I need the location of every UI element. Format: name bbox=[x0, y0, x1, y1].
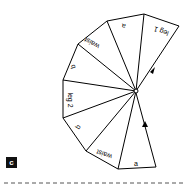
segment-label: leg 2 bbox=[66, 92, 74, 107]
segment-label: waist bbox=[83, 36, 101, 51]
arrow-icon bbox=[142, 121, 148, 127]
panel-label: c bbox=[6, 157, 17, 168]
segment-label: leg 1 bbox=[153, 24, 170, 37]
center-point bbox=[134, 89, 138, 93]
segment-label: a bbox=[121, 23, 126, 31]
outer-edge bbox=[63, 14, 179, 169]
spoke bbox=[107, 21, 136, 91]
spoke bbox=[118, 91, 136, 169]
spoke bbox=[136, 14, 144, 91]
segment-label: waist bbox=[95, 148, 113, 160]
segment-label: a bbox=[134, 160, 138, 167]
fan-diagram: leg 1 a waist b leg 2 b waist a bbox=[0, 0, 189, 190]
segment-label: b bbox=[74, 123, 82, 130]
